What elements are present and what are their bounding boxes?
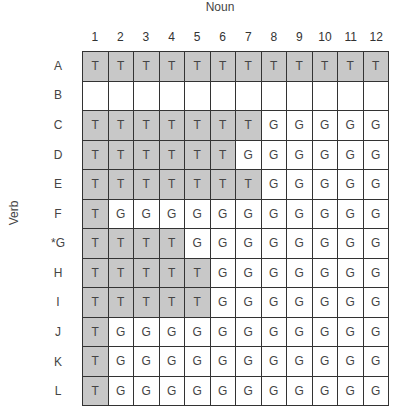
grid-cell: G	[287, 170, 312, 199]
grid-cell: G	[338, 170, 363, 199]
grid-cell: G	[262, 318, 287, 347]
grid-cell: T	[236, 170, 261, 199]
column-header: 8	[261, 30, 287, 46]
grid-cell: T	[160, 141, 185, 170]
grid-cell: T	[134, 170, 159, 199]
grid-cell: G	[287, 141, 312, 170]
grid-cell: G	[313, 141, 338, 170]
grid-cell: G	[185, 229, 210, 258]
grid-cell: T	[185, 111, 210, 140]
grid-cell: T	[313, 52, 338, 81]
grid-cell: G	[211, 229, 236, 258]
grid-cell: T	[83, 111, 108, 140]
grid-cell: T	[109, 288, 134, 317]
grid-cell: T	[211, 52, 236, 81]
grid-cell: T	[83, 259, 108, 288]
grid-cell: G	[338, 347, 363, 376]
column-header: 12	[363, 30, 389, 46]
grid-cell: G	[185, 200, 210, 229]
grid-cell: G	[185, 318, 210, 347]
grid-cell: G	[364, 318, 389, 347]
grid-cell: G	[313, 259, 338, 288]
grid-cell: G	[313, 377, 338, 406]
grid-cell: G	[338, 229, 363, 258]
grid-cell: G	[262, 141, 287, 170]
grid-cell: G	[109, 377, 134, 406]
grid-cell: G	[262, 229, 287, 258]
column-header: 2	[108, 30, 134, 46]
grid-cell: G	[211, 200, 236, 229]
column-header: 11	[338, 30, 364, 46]
grid-cell: T	[185, 288, 210, 317]
column-header: 1	[82, 30, 108, 46]
row-header: C	[40, 110, 76, 140]
grid-cell: G	[364, 141, 389, 170]
column-header: 6	[210, 30, 236, 46]
grid-cell: G	[109, 318, 134, 347]
grid-cell	[364, 82, 389, 111]
grid-cell: G	[338, 200, 363, 229]
grid-cell: G	[211, 377, 236, 406]
grid-cell: G	[134, 200, 159, 229]
grid-cell: G	[313, 288, 338, 317]
grid-cell: G	[262, 170, 287, 199]
grid-cell: T	[83, 347, 108, 376]
grid-cell: T	[287, 52, 312, 81]
grid-cell: T	[211, 170, 236, 199]
grid-cell: G	[160, 318, 185, 347]
grid-cell: G	[134, 347, 159, 376]
grid-cell: G	[185, 347, 210, 376]
grid-cell: G	[338, 318, 363, 347]
grid-cell: G	[364, 259, 389, 288]
grid-cell: T	[364, 52, 389, 81]
grid-cell: T	[160, 52, 185, 81]
grid-cell: T	[109, 111, 134, 140]
grid-cell: G	[211, 318, 236, 347]
grid-cell: G	[313, 318, 338, 347]
grid-cell: G	[211, 288, 236, 317]
grid-cell: T	[262, 52, 287, 81]
grid-cell: G	[287, 347, 312, 376]
grid-cell: G	[313, 111, 338, 140]
column-headers: 123456789101112	[82, 30, 389, 46]
grid-cell: T	[134, 288, 159, 317]
grid-cell: T	[83, 229, 108, 258]
grid-cell: G	[160, 347, 185, 376]
grid-cell: T	[109, 170, 134, 199]
grid-cell: G	[262, 347, 287, 376]
grid-cell: G	[287, 200, 312, 229]
grid-cell: T	[185, 170, 210, 199]
row-header: F	[40, 199, 76, 229]
grid-cell: T	[160, 259, 185, 288]
grid-cell: T	[338, 52, 363, 81]
grid-cell: G	[134, 318, 159, 347]
grid-cell: G	[364, 229, 389, 258]
grid-cell: T	[211, 141, 236, 170]
grid-cell: G	[313, 229, 338, 258]
grid-cell: T	[83, 318, 108, 347]
grid-cell	[236, 82, 261, 111]
grid-cell: G	[287, 111, 312, 140]
grid-cell: G	[236, 377, 261, 406]
grid-cell: G	[109, 347, 134, 376]
grid-cell: T	[185, 141, 210, 170]
row-header: *G	[40, 229, 76, 259]
grid-cell: T	[83, 170, 108, 199]
grid-cell: T	[134, 259, 159, 288]
row-headers: ABCDEF*GHIJKL	[40, 51, 76, 406]
grid-cell	[338, 82, 363, 111]
grid-cell: G	[236, 200, 261, 229]
row-header: J	[40, 317, 76, 347]
grid-cell: G	[287, 229, 312, 258]
grid-cell: G	[364, 347, 389, 376]
grid-cell: G	[236, 141, 261, 170]
column-header: 9	[287, 30, 313, 46]
grid-cell: T	[109, 229, 134, 258]
grid-cell: T	[185, 259, 210, 288]
grid-cell: G	[338, 377, 363, 406]
grid-cell: T	[160, 170, 185, 199]
grid-cell: G	[236, 229, 261, 258]
grid-cell	[185, 82, 210, 111]
grid-cell	[109, 82, 134, 111]
grid-cell: G	[262, 200, 287, 229]
